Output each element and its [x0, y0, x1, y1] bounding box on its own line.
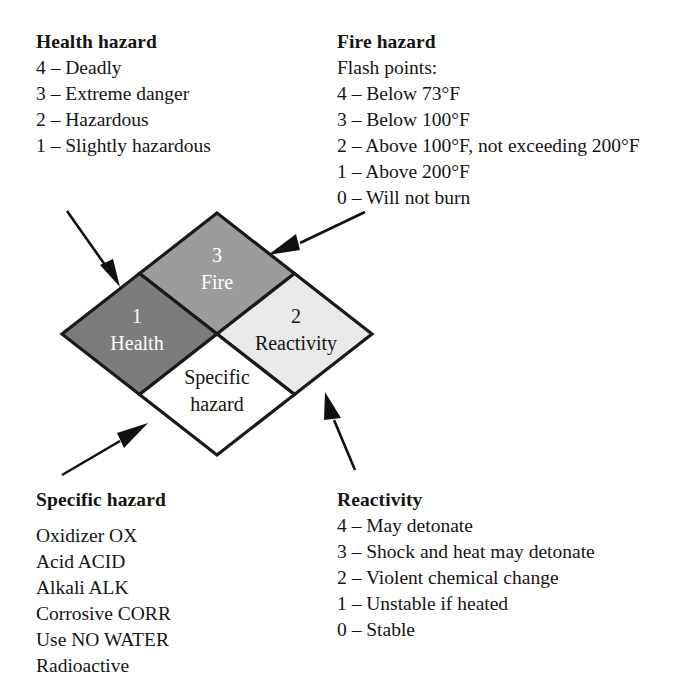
list-item: 0 – Will not burn	[337, 185, 640, 211]
fire-hazard-legend: Fire hazard Flash points: 4 – Below 73°F…	[337, 29, 640, 211]
reactivity-heading: Reactivity	[337, 487, 595, 513]
reactivity-list: 4 – May detonate 3 – Shock and heat may …	[337, 513, 595, 643]
fire-hazard-list: Flash points: 4 – Below 73°F 3 – Below 1…	[337, 55, 640, 211]
diagram-canvas: Health hazard 4 – Deadly 3 – Extreme dan…	[0, 0, 678, 690]
list-item: 4 – May detonate	[337, 513, 595, 539]
list-item: 1 – Above 200°F	[337, 159, 640, 185]
list-item: Alkali ALK	[36, 575, 171, 601]
specific-hazard-quadrant-label-line2: hazard	[190, 393, 243, 415]
specific-hazard-quadrant-label-line1: Specific	[184, 366, 250, 389]
reactivity-legend: Reactivity 4 – May detonate 3 – Shock an…	[337, 487, 595, 643]
list-item: 4 – Below 73°F	[337, 81, 640, 107]
list-item: 4 – Deadly	[36, 55, 211, 81]
specific-hazard-legend: Specific hazard Oxidizer OX Acid ACID Al…	[36, 487, 171, 679]
list-item: 3 – Shock and heat may detonate	[337, 539, 595, 565]
health-hazard-legend: Health hazard 4 – Deadly 3 – Extreme dan…	[36, 29, 211, 159]
list-item: Radioactive	[36, 653, 171, 679]
list-item: 1 – Slightly hazardous	[36, 133, 211, 159]
list-item: Oxidizer OX	[36, 523, 171, 549]
fire-hazard-heading: Fire hazard	[337, 29, 640, 55]
list-item: 3 – Below 100°F	[337, 107, 640, 133]
reactivity-quadrant-label: Reactivity	[255, 332, 337, 355]
fire-quadrant-label: Fire	[201, 271, 233, 293]
list-item: Use NO WATER	[36, 627, 171, 653]
list-item: 2 – Above 100°F, not exceeding 200°F	[337, 133, 640, 159]
health-hazard-list: 4 – Deadly 3 – Extreme danger 2 – Hazard…	[36, 55, 211, 159]
list-item: 1 – Unstable if heated	[337, 591, 595, 617]
list-item: Flash points:	[337, 55, 640, 81]
specific-hazard-heading: Specific hazard	[36, 487, 171, 513]
list-item: Acid ACID	[36, 549, 171, 575]
health-rating-value: 1	[132, 305, 142, 327]
list-item: 0 – Stable	[337, 617, 595, 643]
list-item: 3 – Extreme danger	[36, 81, 211, 107]
list-item: 2 – Hazardous	[36, 107, 211, 133]
list-item: 2 – Violent chemical change	[337, 565, 595, 591]
nfpa-hazard-diamond: 3 Fire 1 Health 2 Reactivity Specific ha…	[62, 213, 372, 455]
specific-hazard-list: Oxidizer OX Acid ACID Alkali ALK Corrosi…	[36, 523, 171, 679]
health-quadrant-label: Health	[110, 332, 163, 354]
health-hazard-heading: Health hazard	[36, 29, 211, 55]
fire-rating-value: 3	[212, 244, 222, 266]
reactivity-rating-value: 2	[291, 305, 301, 327]
list-item: Corrosive CORR	[36, 601, 171, 627]
